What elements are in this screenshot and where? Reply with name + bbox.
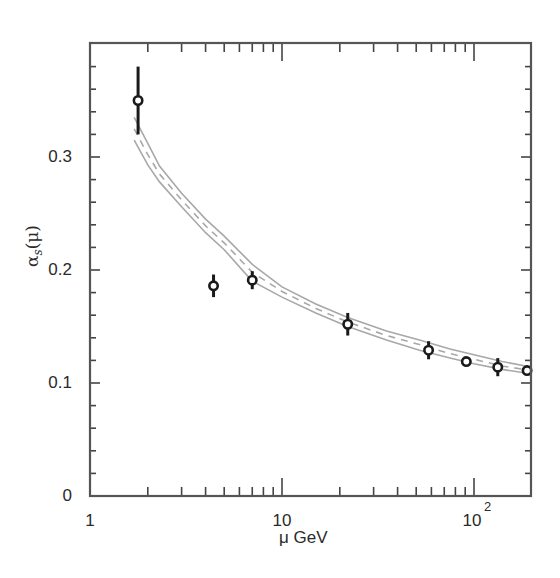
- chart-canvas: [0, 0, 560, 578]
- y-axis-title-arg: (μ): [22, 225, 42, 249]
- open-circle-marker: [462, 357, 470, 365]
- open-circle-marker: [424, 346, 432, 354]
- axis-ticks: [90, 43, 531, 496]
- y-tick-label: 0: [32, 487, 72, 504]
- data-point: [209, 275, 217, 298]
- open-circle-marker: [134, 96, 142, 104]
- data-points: [134, 67, 531, 377]
- data-point: [462, 357, 470, 365]
- x-tick-label: 1: [70, 512, 110, 529]
- plot-frame: [90, 43, 531, 496]
- open-circle-marker: [248, 276, 256, 284]
- y-tick-label: 0.3: [32, 148, 72, 165]
- data-point: [134, 67, 142, 135]
- x-tick-label: 10: [262, 512, 302, 529]
- open-circle-marker: [344, 320, 352, 328]
- band-edge-curve: [134, 140, 532, 374]
- y-tick-label: 0.1: [32, 374, 72, 391]
- y-axis-title-symbol: α: [22, 256, 42, 267]
- open-circle-marker: [494, 363, 502, 371]
- open-circle-marker: [209, 282, 217, 290]
- band-edge-curve: [134, 117, 532, 367]
- x-tick-label-exponent: 2: [484, 500, 491, 513]
- y-axis-title-subscript: s: [31, 249, 45, 255]
- central-prediction-curve: [134, 129, 532, 371]
- y-axis-title: αs(μ): [24, 220, 44, 272]
- data-point: [248, 271, 256, 289]
- x-axis-title: μ GeV: [279, 529, 328, 546]
- prediction-curves: [134, 117, 532, 374]
- x-tick-label: 10: [452, 512, 492, 529]
- x-axis-title-text: μ GeV: [279, 528, 328, 547]
